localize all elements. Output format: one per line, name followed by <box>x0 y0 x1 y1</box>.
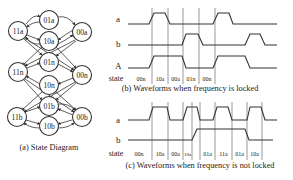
svg-text:10n: 10n <box>43 81 55 90</box>
wave-b-not-locked <box>128 129 273 140</box>
state-node-00b: 00b <box>73 108 92 127</box>
signal-label-a: a <box>116 115 120 125</box>
state-cell: 11a <box>219 151 228 157</box>
svg-text:11a: 11a <box>13 27 24 36</box>
state-node-00n: 00n <box>73 66 92 85</box>
svg-text:01b: 01b <box>43 102 55 111</box>
state-node-01n: 01n <box>40 53 59 72</box>
caption-not-locked: (c) Waveforms when frequency is not lock… <box>126 161 276 170</box>
state-cell: 01a <box>235 151 244 157</box>
svg-text:11b: 11b <box>12 113 23 122</box>
svg-text:10a: 10a <box>44 37 56 46</box>
waveforms-locked: a b A state 00n 10a 00a 01n 00n (b) Wave… <box>109 8 277 93</box>
state-node-10a: 10a <box>40 32 59 51</box>
state-row-label: state <box>109 149 124 158</box>
state-cell: 01n <box>187 76 196 82</box>
state-cell: 00n <box>203 76 212 82</box>
state-cell: 00a <box>171 76 180 82</box>
svg-text:01a: 01a <box>44 16 56 25</box>
waveforms-not-locked: a b state 00n 10a 00a 10a 01a 11a 01a 10… <box>109 102 277 170</box>
state-node-10n: 10n <box>40 76 59 95</box>
signal-label-b: b <box>116 135 121 145</box>
svg-text:00n: 00n <box>76 71 88 80</box>
figure: 11a 01a 10a 00a 11n 01n 10n 00n 11b 01b … <box>0 0 293 180</box>
state-node-10b: 10b <box>40 117 59 136</box>
svg-text:01n: 01n <box>43 58 55 67</box>
state-cell: 10a <box>184 152 192 157</box>
state-cell: 00n <box>137 76 146 82</box>
state-node-11n: 11n <box>9 63 28 82</box>
state-cell: 00a <box>171 151 180 157</box>
caption-state-diagram: (a) State Diagram <box>20 143 80 152</box>
signal-label-A: A <box>115 61 122 71</box>
wave-a-not-locked <box>128 107 277 120</box>
svg-text:11n: 11n <box>13 68 24 77</box>
state-node-11b: 11b <box>8 108 27 127</box>
state-cell: 10a <box>250 151 259 157</box>
state-diagram-nodes: 11a 01a 10a 00a 11n 01n 10n 00n 11b 01b … <box>8 11 92 136</box>
signal-label-a: a <box>116 14 120 24</box>
wave-A-locked <box>128 56 277 68</box>
svg-text:00b: 00b <box>76 113 88 122</box>
state-node-00a: 00a <box>73 23 92 42</box>
signal-label-b: b <box>116 39 121 49</box>
state-node-11a: 11a <box>9 22 28 41</box>
state-row-label: state <box>109 74 124 83</box>
state-node-01b: 01b <box>40 97 59 116</box>
svg-text:00a: 00a <box>77 28 89 37</box>
state-node-01a: 01a <box>40 11 59 30</box>
state-cell: 00n <box>135 151 144 157</box>
state-cell: 10a <box>156 76 165 82</box>
state-cell: 01a <box>203 151 212 157</box>
wave-a-locked <box>128 13 277 24</box>
caption-locked: (b) Waveforms when frequency is locked <box>122 84 260 93</box>
svg-text:10b: 10b <box>43 122 55 131</box>
state-cell: 10a <box>156 151 165 157</box>
wave-b-locked <box>128 34 277 45</box>
